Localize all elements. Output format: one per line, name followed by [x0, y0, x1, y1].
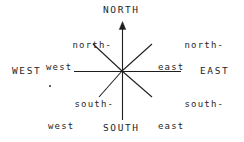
label-northeast-line1: north- — [184, 40, 224, 50]
label-southwest: south- west — [48, 88, 114, 142]
label-northwest-line2: west — [46, 62, 112, 73]
label-southeast-line1: south- — [184, 99, 224, 109]
label-northeast-line2: east — [158, 62, 224, 73]
label-west: WEST — [12, 65, 41, 76]
label-southeast: south- east — [158, 88, 224, 142]
label-southwest-line2: west — [48, 121, 114, 132]
label-southwest-line1: south- — [74, 99, 114, 109]
label-northwest: north- west — [46, 29, 112, 95]
label-northwest-line1: north- — [72, 40, 112, 50]
compass-rose-figure: NORTH SOUTH WEST EAST north- west north-… — [0, 0, 244, 142]
label-northeast: north- east — [158, 29, 224, 95]
north-arrowhead-icon — [119, 22, 126, 30]
southeast-diagonal-line — [122, 71, 152, 97]
label-north: NORTH — [103, 4, 140, 15]
scan-speck-artifact — [49, 85, 51, 87]
label-southeast-line2: east — [158, 121, 224, 132]
northeast-diagonal-line — [122, 44, 152, 71]
